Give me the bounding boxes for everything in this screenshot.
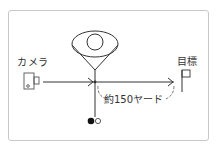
flag-icon — [182, 70, 190, 92]
camera-icon — [24, 73, 39, 89]
golf-ball-icon — [88, 118, 101, 125]
distance-label: 約150ヤード — [104, 95, 163, 105]
target-label: 目標 — [177, 57, 197, 67]
camera-sight-arrow — [43, 78, 94, 86]
target-line-arrow — [95, 78, 174, 86]
golfer-top-view-icon — [72, 31, 118, 70]
golf-alignment-diagram — [0, 0, 217, 147]
camera-label: カメラ — [17, 58, 49, 68]
